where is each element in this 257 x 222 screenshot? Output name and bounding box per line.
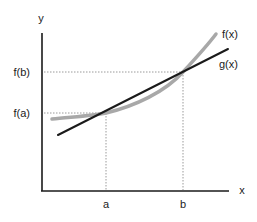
y-axis-label: y <box>38 12 44 24</box>
line-g-label: g(x) <box>219 58 238 70</box>
axes <box>41 33 229 191</box>
curve-f <box>52 34 216 119</box>
y-tick-label-fb: f(b) <box>14 66 31 78</box>
x-tick-label-a: a <box>103 198 110 210</box>
x-axis-label: x <box>239 184 245 196</box>
x-tick-label-b: b <box>180 198 186 210</box>
curve-f-label: f(x) <box>222 28 238 40</box>
y-tick-label-fa: f(a) <box>14 107 31 119</box>
secant-diagram: y x f(b) f(a) a b f(x) g(x) <box>0 0 257 222</box>
line-g <box>58 49 228 135</box>
